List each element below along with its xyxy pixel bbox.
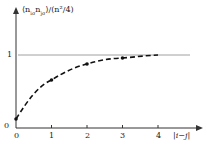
y-axis-arrow-icon [13, 7, 19, 14]
x-axis-label: |i−j| [173, 132, 190, 140]
chart-canvas [0, 0, 207, 146]
x-tick-3: 3 [120, 132, 125, 140]
data-markers [14, 56, 124, 121]
x-tick-1: 1 [49, 132, 54, 140]
y-axis-label: ⟨niσnjσ⟩/(n²/4) [22, 6, 74, 16]
marker-x3 [121, 56, 125, 60]
ylabel-tail: ⟩/(n²/4) [45, 5, 73, 14]
marker-x2 [85, 62, 89, 66]
x-axis-arrow-icon [196, 125, 203, 131]
y-tick-1: 1 [7, 51, 12, 59]
x-tick-4: 4 [156, 132, 161, 140]
y-tick-0: 0 [4, 122, 9, 130]
x-tick-0: 0 [14, 132, 19, 140]
marker-x0 [14, 117, 18, 121]
x-tick-2: 2 [85, 132, 90, 140]
marker-x1 [50, 78, 54, 82]
